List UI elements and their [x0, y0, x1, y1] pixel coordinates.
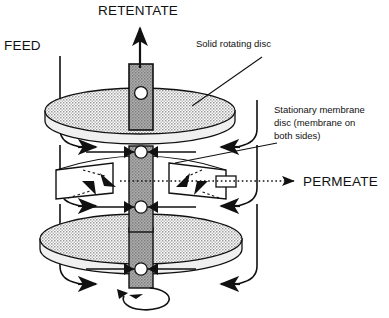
bearing-lower: [86, 201, 196, 213]
shaft-middle: [129, 146, 153, 232]
shaft-port-hole: [135, 87, 148, 100]
solid-rotating-disc-label: Solid rotating disc: [196, 38, 271, 49]
bearing-upper: [86, 146, 196, 158]
diagram-canvas: RETENTATE FEED PERMEATE Solid rotating d…: [0, 0, 389, 318]
stationary-membrane-disc-label-line3: both sides): [274, 130, 320, 141]
retentate-label: RETENTATE: [98, 3, 178, 18]
stationary-membrane-disc-label-line1: Stationary membrane: [274, 104, 365, 115]
membrane-disc-diagram: RETENTATE FEED PERMEATE Solid rotating d…: [0, 0, 389, 318]
stationary-membrane-disc-label-line2: disc (membrane on: [274, 117, 355, 128]
leader-solid-rotating-disc: [192, 57, 262, 106]
shaft-lower: [129, 228, 153, 288]
feed-label: FEED: [4, 38, 41, 53]
shaft-upper: [129, 64, 153, 130]
rotation-arrow: [117, 288, 169, 310]
permeate-label: PERMEATE: [303, 174, 378, 189]
